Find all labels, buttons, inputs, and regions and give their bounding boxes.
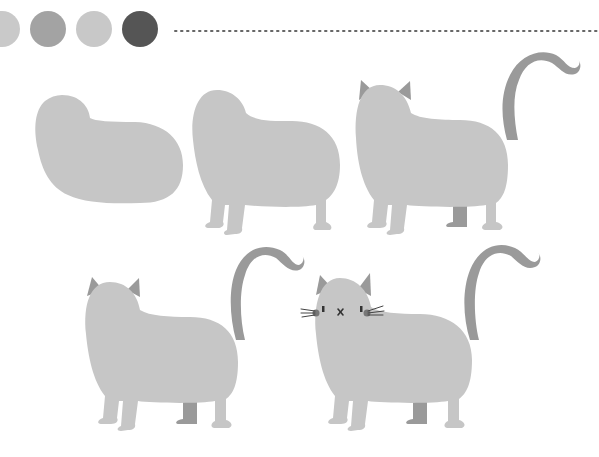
- swatch-mid-gray: [30, 11, 66, 47]
- right-eye: [360, 306, 363, 312]
- swatch-pale-gray: [76, 11, 112, 47]
- color-palette: [0, 11, 158, 47]
- step-5-cat-finished: [301, 245, 540, 431]
- left-whiskers: [301, 309, 315, 317]
- step-2-body-legs: [192, 90, 340, 235]
- cat-drawing-illustration: [0, 0, 599, 457]
- swatch-dark-gray: [122, 11, 158, 47]
- step-4-cat-refined: [85, 247, 304, 431]
- left-eye: [322, 306, 325, 312]
- step-1-blob: [35, 95, 183, 203]
- step-3-cat-ears-tail: [356, 52, 581, 235]
- swatch-light-gray: [0, 11, 20, 47]
